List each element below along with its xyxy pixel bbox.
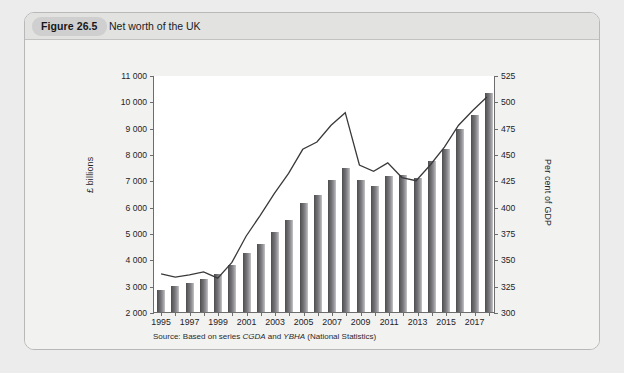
x-axis-label: 2003 <box>260 318 290 327</box>
y-axis-label-left: 8 000 <box>125 151 147 160</box>
x-axis-tick <box>247 312 248 316</box>
x-axis-tick <box>403 312 404 316</box>
y-axis-label-right: 325 <box>501 283 515 292</box>
y-axis-tick-right <box>494 181 498 182</box>
y-axis-label-right: 300 <box>501 309 515 318</box>
line-series-path <box>161 97 487 278</box>
line-series-layer <box>154 76 494 312</box>
x-axis-label: 2005 <box>289 318 319 327</box>
y-axis-tick-right <box>494 76 498 77</box>
y-axis-tick-left <box>150 234 154 235</box>
y-axis-label-left: 2 000 <box>125 309 147 318</box>
x-axis-tick <box>218 312 219 316</box>
y-axis-label-left: 6 000 <box>125 204 147 213</box>
x-axis-tick <box>275 312 276 316</box>
x-axis-tick <box>261 312 262 316</box>
x-axis-label: 2001 <box>232 318 262 327</box>
x-axis-label: 2017 <box>460 318 490 327</box>
x-axis-tick <box>332 312 333 316</box>
x-axis-tick <box>361 312 362 316</box>
y-axis-tick-right <box>494 208 498 209</box>
figure-title: Net worth of the UK <box>109 17 201 36</box>
y-axis-tick-right <box>494 155 498 156</box>
y-axis-label-left: 10 000 <box>121 98 147 107</box>
y-axis-tick-left <box>150 155 154 156</box>
x-axis-label: 2013 <box>403 318 433 327</box>
x-axis-tick <box>389 312 390 316</box>
y-axis-tick-right <box>494 287 498 288</box>
x-axis-label: 1997 <box>175 318 205 327</box>
x-axis-tick <box>432 312 433 316</box>
y-axis-title-right: Per cent of GDP <box>543 159 553 226</box>
y-axis-label-left: 3 000 <box>125 283 147 292</box>
source-suffix: (National Statistics) <box>305 332 376 341</box>
x-axis-tick <box>489 312 490 316</box>
source-middle: and <box>266 332 284 341</box>
x-axis-tick <box>375 312 376 316</box>
y-axis-tick-left <box>150 129 154 130</box>
source-series-code-2: YBHA <box>283 332 305 341</box>
source-note: Source: Based on series CGDA and YBHA (N… <box>153 332 376 341</box>
y-axis-label-right: 375 <box>501 230 515 239</box>
y-axis-tick-left <box>150 181 154 182</box>
figure-body: £ billions Per cent of GDP 2 0003 0004 0… <box>25 41 599 350</box>
y-axis-tick-left <box>150 287 154 288</box>
y-axis-label-right: 475 <box>501 125 515 134</box>
y-axis-tick-left <box>150 208 154 209</box>
x-axis-tick <box>460 312 461 316</box>
figure-card: Figure 26.5 Net worth of the UK £ billio… <box>24 12 600 350</box>
chart-canvas: £ billions Per cent of GDP 2 0003 0004 0… <box>25 41 600 326</box>
y-axis-label-right: 350 <box>501 256 515 265</box>
x-axis-label: 1995 <box>146 318 176 327</box>
y-axis-tick-right <box>494 102 498 103</box>
x-axis-label: 1999 <box>203 318 233 327</box>
y-axis-tick-right <box>494 313 498 314</box>
x-axis-tick <box>232 312 233 316</box>
x-axis-label: 2015 <box>431 318 461 327</box>
plot-area: 2 0003 0004 0005 0006 0007 0008 0009 000… <box>153 76 495 313</box>
y-axis-tick-left <box>150 260 154 261</box>
y-axis-title-left: £ billions <box>85 157 95 193</box>
x-axis-tick <box>204 312 205 316</box>
x-axis-tick <box>475 312 476 316</box>
y-axis-label-right: 425 <box>501 177 515 186</box>
y-axis-tick-right <box>494 260 498 261</box>
x-axis-tick <box>446 312 447 316</box>
x-axis-tick <box>418 312 419 316</box>
y-axis-label-right: 500 <box>501 98 515 107</box>
y-axis-label-left: 9 000 <box>125 125 147 134</box>
source-series-code-1: CGDA <box>242 332 265 341</box>
x-axis-tick <box>175 312 176 316</box>
y-axis-tick-left <box>150 102 154 103</box>
y-axis-tick-right <box>494 129 498 130</box>
y-axis-label-left: 7 000 <box>125 177 147 186</box>
y-axis-tick-right <box>494 234 498 235</box>
y-axis-label-right: 400 <box>501 204 515 213</box>
y-axis-tick-left <box>150 76 154 77</box>
x-axis-label: 2011 <box>374 318 404 327</box>
y-axis-label-left: 4 000 <box>125 256 147 265</box>
x-axis-label: 2007 <box>317 318 347 327</box>
x-axis-tick <box>346 312 347 316</box>
figure-header: Figure 26.5 Net worth of the UK <box>25 13 599 40</box>
y-axis-label-right: 525 <box>501 72 515 81</box>
x-axis-tick <box>161 312 162 316</box>
x-axis-tick <box>304 312 305 316</box>
y-axis-label-left: 5 000 <box>125 230 147 239</box>
y-axis-label-right: 450 <box>501 151 515 160</box>
figure-number-badge: Figure 26.5 <box>32 17 107 36</box>
source-prefix: Source: Based on series <box>153 332 242 341</box>
x-axis-tick <box>318 312 319 316</box>
x-axis-label: 2009 <box>346 318 376 327</box>
y-axis-label-left: 11 000 <box>121 72 147 81</box>
x-axis-tick <box>289 312 290 316</box>
y-axis-tick-left <box>150 313 154 314</box>
x-axis-tick <box>190 312 191 316</box>
